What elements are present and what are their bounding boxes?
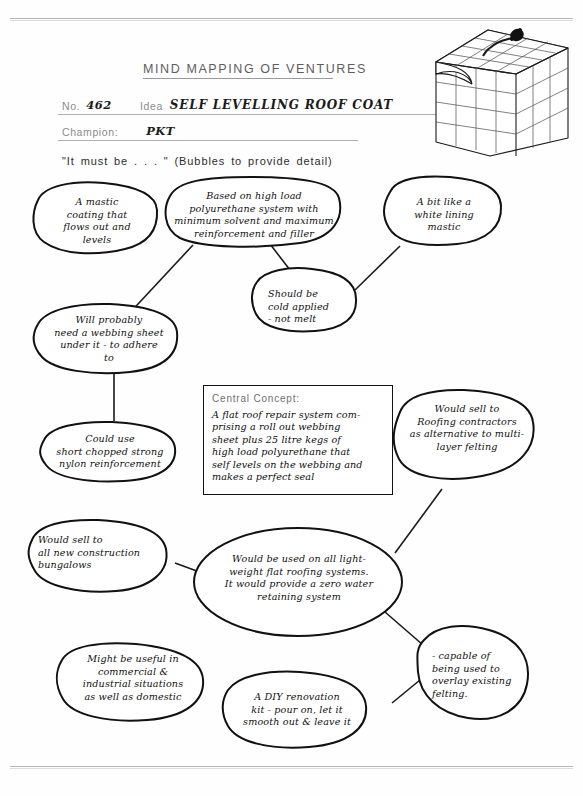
connector-diy-overlay: [392, 680, 420, 703]
field-champion: Champion: PKT: [62, 124, 175, 138]
cube-diagram-icon: [428, 22, 576, 160]
instruction-text: "It must be . . . " (Bubbles to provide …: [62, 155, 333, 167]
bubble-label-mastic-coating[interactable]: A mastic coating that flows out and leve…: [42, 196, 152, 246]
field-idea-value[interactable]: SELF LEVELLING ROOF COAT: [170, 98, 393, 112]
connector-bungalows-lightweight: [175, 563, 205, 574]
bubble-label-roofing-contractors[interactable]: Would sell to Roofing contractors as alt…: [402, 403, 532, 453]
connector-cold-whitelining: [355, 246, 400, 290]
connector-lightweight-overlay: [385, 612, 423, 645]
connector-roofing-lightweight: [395, 489, 442, 553]
field-number-value[interactable]: 462: [86, 98, 112, 112]
central-concept-label: Central Concept:: [212, 393, 384, 404]
bubble-label-lightweight-flat-roofing[interactable]: Would be used on all light- weight flat …: [205, 553, 393, 603]
connector-polyurethane-webbing: [125, 245, 193, 318]
bubble-label-polyurethane-system[interactable]: Based on high load polyurethane system w…: [168, 190, 340, 240]
page-rule-bottom: [10, 766, 573, 769]
bubble-label-bungalows[interactable]: Would sell to all new construction bunga…: [38, 534, 168, 572]
field-idea: Idea SELF LEVELLING ROOF COAT: [140, 98, 393, 112]
central-concept-body: A flat roof repair system com- prising a…: [212, 409, 384, 483]
bubble-label-nylon-reinforcement[interactable]: Could use short chopped strong nylon rei…: [46, 433, 174, 471]
field-number: No. 462: [62, 98, 112, 112]
connector-polyurethane-cold: [270, 244, 300, 283]
worksheet-page: MIND MAPPING OF VENTURES No. 462 Idea SE…: [0, 0, 583, 796]
central-concept-box[interactable]: Central Concept: A flat roof repair syst…: [203, 385, 393, 495]
bubble-label-webbing-sheet[interactable]: Will probably need a webbing sheet under…: [44, 314, 174, 364]
bubble-label-diy-renovation[interactable]: A DIY renovation kit - pour on, let it s…: [230, 691, 364, 729]
page-title: MIND MAPPING OF VENTURES: [143, 62, 333, 79]
field-champion-rule: [58, 140, 358, 141]
bubble-label-commercial-industrial[interactable]: Might be useful in commercial & industri…: [66, 653, 200, 703]
field-idea-label: Idea: [140, 100, 163, 112]
field-champion-value[interactable]: PKT: [146, 124, 175, 138]
bubble-label-white-lining-mastic[interactable]: A bit like a white lining mastic: [392, 196, 496, 234]
page-rule-top: [10, 18, 573, 21]
field-number-label: No.: [62, 100, 80, 112]
bubble-label-cold-applied[interactable]: Should be cold applied - not melt: [268, 288, 358, 326]
form-header: MIND MAPPING OF VENTURES: [58, 62, 418, 79]
field-champion-label: Champion:: [62, 126, 118, 138]
bubble-label-overlay-felting[interactable]: - capable of being used to overlay exist…: [432, 650, 532, 700]
